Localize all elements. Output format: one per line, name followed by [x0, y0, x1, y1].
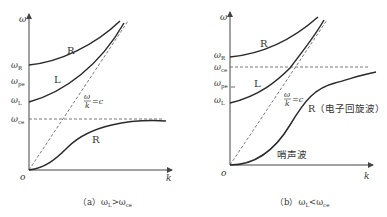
y-axis-label: ω: [19, 14, 27, 24]
label-upper-r: R: [67, 45, 75, 56]
tick-omega-r: ωR: [11, 60, 23, 71]
svg-text:=c: =c: [292, 95, 304, 104]
x-axis-label: k: [166, 173, 171, 183]
label-l: L: [54, 74, 61, 85]
light-line-label: ω k =c: [84, 92, 104, 110]
upper-r-curve: [230, 17, 318, 57]
upper-r-curve: [29, 21, 120, 65]
origin-label: o: [20, 172, 26, 182]
y-axis-label: ω: [220, 12, 228, 22]
label-upper-r: R: [260, 38, 268, 49]
light-line-label: ω k =c: [284, 90, 304, 108]
tick-omega-l: ωL: [11, 95, 22, 106]
tick-omega-ce: ωce: [214, 62, 227, 73]
x-axis-label: k: [364, 171, 369, 181]
svg-text:ω: ω: [84, 92, 90, 101]
origin-label: o: [221, 168, 227, 178]
svg-text:k: k: [285, 99, 290, 108]
label-lower-r: R: [92, 134, 100, 145]
label-lower-r: R（电子回旋波）: [308, 103, 385, 114]
svg-text:=c: =c: [92, 97, 104, 106]
tick-omega-r: ωR: [214, 50, 226, 61]
light-line: [29, 21, 128, 170]
panel-b: ω k o ωR ωce ωpe ωL R L R（电子回旋波） 哨声波 ω k…: [214, 12, 385, 208]
light-line: [230, 20, 327, 165]
caption-b: （b）ωL<ωce: [275, 197, 329, 208]
label-whistler: 哨声波: [277, 149, 307, 160]
l-curve: [230, 20, 324, 103]
lower-r-curve: [29, 121, 166, 170]
svg-text:k: k: [85, 101, 90, 110]
caption-a: （a）ωL>ωce: [78, 197, 132, 208]
tick-omega-l: ωL: [214, 95, 225, 106]
label-l: L: [254, 78, 261, 89]
svg-text:ω: ω: [284, 90, 290, 99]
tick-omega-pe: ωpe: [11, 76, 25, 88]
tick-omega-ce: ωce: [11, 114, 24, 125]
panel-a: ω k o ωR ωpe ωL ωce R L R ω k =c （a）ωL>ω…: [11, 14, 172, 208]
tick-omega-pe: ωpe: [214, 78, 228, 90]
dispersion-diagrams: ω k o ωR ωpe ωL ωce R L R ω k =c （a）ωL>ω…: [0, 0, 387, 217]
